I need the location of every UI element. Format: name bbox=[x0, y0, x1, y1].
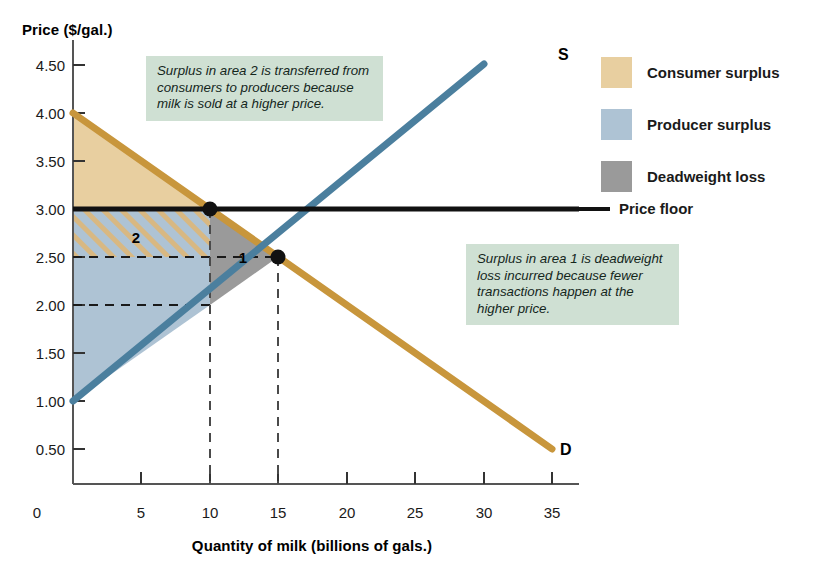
y-tick-label-1-00: 1.00 bbox=[36, 393, 65, 410]
supply-curve-label: S bbox=[558, 46, 569, 63]
x-tick-label-20: 20 bbox=[339, 504, 356, 521]
y-tick-label-4-00: 4.00 bbox=[36, 105, 65, 122]
region-transfer-area-2 bbox=[73, 209, 210, 257]
x-tick-label-5: 5 bbox=[137, 504, 145, 521]
y-tick-label-0-50: 0.50 bbox=[36, 441, 65, 458]
x-tick-label-10: 10 bbox=[202, 504, 219, 521]
callout-area-2: Surplus in area 2 is transferred from co… bbox=[146, 56, 383, 121]
callout-area-2-text: Surplus in area 2 is transferred from co… bbox=[157, 63, 373, 113]
area-label-2: 2 bbox=[132, 229, 140, 246]
x-tick-label-30: 30 bbox=[476, 504, 493, 521]
demand-curve-label: D bbox=[560, 441, 572, 458]
x-axis-ticks bbox=[141, 472, 552, 484]
legend-swatch-producer-surplus bbox=[601, 109, 632, 140]
y-axis-title: Price ($/gal.) bbox=[22, 21, 113, 38]
legend-label-deadweight-loss: Deadweight loss bbox=[647, 168, 765, 185]
legend-swatch-consumer-surplus bbox=[601, 57, 632, 88]
marker-quantity-demanded-at-floor bbox=[203, 202, 218, 217]
callout-area-1: Surplus in area 1 is deadweight loss inc… bbox=[466, 244, 679, 325]
x-tick-label-15: 15 bbox=[270, 504, 287, 521]
y-tick-label-2-00: 2.00 bbox=[36, 297, 65, 314]
y-tick-label-4-50: 4.50 bbox=[36, 57, 65, 74]
legend-item-producer-surplus: Producer surplus bbox=[601, 109, 780, 140]
x-tick-label-35: 35 bbox=[544, 504, 561, 521]
legend-item-consumer-surplus: Consumer surplus bbox=[601, 57, 780, 88]
legend-swatch-deadweight-loss bbox=[601, 161, 632, 192]
x-tick-label-0: 0 bbox=[33, 504, 41, 521]
callout-area-1-text: Surplus in area 1 is deadweight loss inc… bbox=[477, 251, 669, 317]
marker-equilibrium bbox=[271, 250, 286, 265]
legend-label-producer-surplus: Producer surplus bbox=[647, 116, 771, 133]
legend-label-consumer-surplus: Consumer surplus bbox=[647, 64, 780, 81]
area-label-1: 1 bbox=[239, 249, 247, 266]
x-axis-title: Quantity of milk (billions of gals.) bbox=[192, 537, 432, 554]
x-tick-label-25: 25 bbox=[407, 504, 424, 521]
y-tick-label-1-50: 1.50 bbox=[36, 345, 65, 362]
legend-item-deadweight-loss: Deadweight loss bbox=[601, 161, 780, 192]
y-tick-label-3-50: 3.50 bbox=[36, 153, 65, 170]
chart-legend: Consumer surplus Producer surplus Deadwe… bbox=[601, 57, 780, 213]
y-tick-label-3-00: 3.00 bbox=[36, 201, 65, 218]
y-tick-label-2-50: 2.50 bbox=[36, 249, 65, 266]
